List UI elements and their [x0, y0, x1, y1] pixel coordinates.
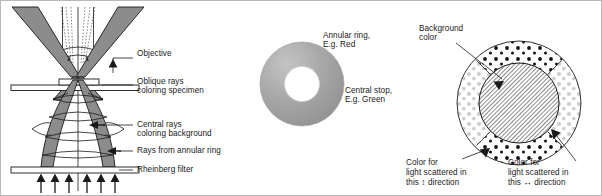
scatter-horizontal-suffix: direction [532, 178, 566, 187]
central-stop-hole [285, 67, 320, 102]
specimen-view-panel: Background color Color for light scatter… [416, 1, 602, 196]
leader-central-rays [89, 121, 133, 129]
scatter-horizontal-prefix: this [508, 178, 523, 187]
label-central-stop-line2: E.g. Green [345, 95, 385, 105]
label-scatter-vertical-line1: Color for [406, 158, 438, 168]
specimen-inner-disc-hatched [479, 63, 559, 143]
label-rays-from-annular-ring: Rays from annular ring [137, 146, 221, 156]
leader-scatter-vertical [462, 148, 490, 159]
scatter-vertical-prefix: this [406, 178, 421, 187]
rheinberg-filter-panel: Annular ring, E.g. Red Central stop, E.g… [251, 1, 421, 196]
label-scatter-horizontal-line1: Color for [508, 158, 540, 168]
label-scatter-horizontal-line3: this ↔ direction [508, 178, 566, 188]
label-scatter-horizontal-line2: light scattered in [508, 168, 569, 178]
scatter-vertical-suffix: direction [426, 178, 460, 187]
optical-path-panel: Objective Oblique rays coloring specimen… [1, 1, 251, 196]
label-oblique-rays-line2: coloring specimen [137, 86, 204, 96]
label-annular-ring-line2: E.g. Red [323, 40, 355, 50]
rheinberg-illumination-figure: Objective Oblique rays coloring specimen… [0, 0, 602, 196]
optical-path-svg [1, 1, 251, 196]
label-scatter-vertical-line3: this ↕ direction [406, 178, 459, 188]
label-rheinberg-filter: Rheinberg filter [137, 165, 193, 175]
label-objective: Objective [137, 49, 172, 59]
label-central-rays-line2: coloring background [137, 129, 212, 139]
objective-arrowhead [109, 59, 118, 68]
label-background-color-line2: color [419, 33, 437, 43]
label-scatter-vertical-line2: light scattered in [406, 168, 467, 178]
horizontal-double-arrow-icon: ↔ [523, 177, 532, 187]
